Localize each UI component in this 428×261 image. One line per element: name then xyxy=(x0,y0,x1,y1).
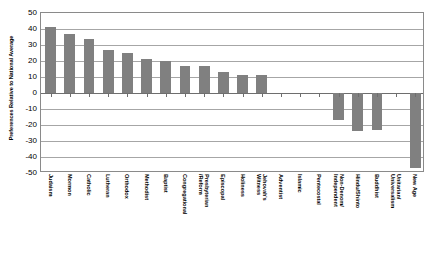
bar-slot xyxy=(291,13,310,171)
x-category-label-line: Unitarian/ xyxy=(395,174,401,208)
chart-container: Preferences Relative to National Average… xyxy=(0,0,428,261)
bar xyxy=(333,93,344,120)
x-tick xyxy=(243,93,244,97)
bar xyxy=(84,39,95,93)
bar-slot xyxy=(406,13,425,171)
x-category-label-line: Lutheran xyxy=(104,174,110,198)
x-tick xyxy=(262,93,263,97)
bar xyxy=(218,72,229,93)
x-category-label: Congregational xyxy=(174,174,193,261)
x-category-label-line: Baptist xyxy=(162,174,168,193)
x-category-label: Orthodox xyxy=(117,174,136,261)
x-category-label: Jehovah'sWitness xyxy=(251,174,270,261)
y-tick-label: -40 xyxy=(25,152,37,161)
x-category-label-line: Orthodox xyxy=(123,174,129,199)
y-tick-label: 40 xyxy=(28,24,37,33)
bar-slot xyxy=(367,13,386,171)
x-tick xyxy=(415,93,416,97)
x-category-label: Judaism xyxy=(40,174,59,261)
y-tick-label: -10 xyxy=(25,104,37,113)
x-category-label: Catholic xyxy=(78,174,97,261)
x-category-label-line: Episcopal xyxy=(219,174,225,200)
bar xyxy=(122,53,133,93)
x-tick xyxy=(166,93,167,97)
x-tick xyxy=(281,93,282,97)
x-category-label-line: Mormon xyxy=(66,174,72,196)
bar-slot xyxy=(175,13,194,171)
x-category-label-line: Hindu/Shinto xyxy=(354,174,360,208)
x-category-label: Islamic xyxy=(290,174,309,261)
y-tick-label: 0 xyxy=(33,88,37,97)
x-tick xyxy=(89,93,90,97)
x-tick xyxy=(204,93,205,97)
y-tick-label: 10 xyxy=(28,72,37,81)
bar xyxy=(141,59,152,93)
y-tick-label: -50 xyxy=(25,168,37,177)
y-axis-tick-labels: 50403020100-10-20-30-40-50 xyxy=(18,12,37,172)
x-category-label: Adventist xyxy=(270,174,289,261)
bar xyxy=(410,93,421,168)
bar xyxy=(256,75,267,93)
bar-slot xyxy=(195,13,214,171)
x-category-label-line: Methodist xyxy=(143,174,149,200)
x-category-label-line: New Age xyxy=(411,174,417,197)
x-category-label-line: Adventist xyxy=(277,174,283,199)
bar-slot xyxy=(252,13,271,171)
x-tick xyxy=(185,93,186,97)
bar xyxy=(64,34,75,93)
bar-slot xyxy=(233,13,252,171)
y-tick-label: 30 xyxy=(28,40,37,49)
y-tick-label: -30 xyxy=(25,136,37,145)
y-tick-label: 50 xyxy=(28,8,37,17)
x-category-label: Unitarian/Universalism xyxy=(386,174,405,261)
bar xyxy=(237,75,248,93)
x-category-label: Lutheran xyxy=(98,174,117,261)
x-category-label-line: Buddhist xyxy=(373,174,379,198)
y-tick-label: 20 xyxy=(28,56,37,65)
bar-slot xyxy=(271,13,290,171)
x-axis-category-labels: JudaismMormonCatholicLutheranOrthodoxMet… xyxy=(40,174,424,261)
x-category-label-line: Congregational xyxy=(181,174,187,214)
x-category-label: Presbyterian/Reform xyxy=(194,174,213,261)
bar xyxy=(180,66,191,93)
x-category-label: Holiness xyxy=(232,174,251,261)
bar xyxy=(103,50,114,93)
x-tick xyxy=(319,93,320,97)
bar-slot xyxy=(156,13,175,171)
x-tick xyxy=(70,93,71,97)
bar-slot xyxy=(387,13,406,171)
x-axis-ticks xyxy=(41,93,423,97)
x-category-label-line: Presbyterian xyxy=(203,174,209,207)
x-category-label: Buddhist xyxy=(366,174,385,261)
x-category-label: New Age xyxy=(405,174,424,261)
bar-slot xyxy=(99,13,118,171)
y-tick-label: -20 xyxy=(25,120,37,129)
bar xyxy=(352,93,363,131)
x-tick xyxy=(147,93,148,97)
x-category-label: Pentecostal xyxy=(309,174,328,261)
x-category-label-line: Holiness xyxy=(239,174,245,197)
bar-slot xyxy=(60,13,79,171)
x-tick xyxy=(223,93,224,97)
bar-slot xyxy=(137,13,156,171)
x-category-label-line: Universalism xyxy=(389,174,395,208)
x-category-label: Non-Denom/Independent xyxy=(328,174,347,261)
x-category-label-line: Islamic xyxy=(296,174,302,193)
x-category-label-line: Witness xyxy=(255,174,261,201)
x-tick xyxy=(339,93,340,97)
bar-slot xyxy=(348,13,367,171)
bar-slot xyxy=(329,13,348,171)
bar xyxy=(199,66,210,93)
x-tick xyxy=(127,93,128,97)
x-category-label-line: Independent xyxy=(332,174,338,207)
x-category-label: Episcopal xyxy=(213,174,232,261)
x-tick xyxy=(396,93,397,97)
bar-slot xyxy=(118,13,137,171)
bar-slot xyxy=(214,13,233,171)
plot-area xyxy=(40,12,424,172)
x-category-label: Mormon xyxy=(59,174,78,261)
x-category-label-line: Pentecostal xyxy=(315,174,321,205)
x-category-label-line: Judaism xyxy=(47,174,53,196)
x-tick xyxy=(108,93,109,97)
x-tick xyxy=(300,93,301,97)
